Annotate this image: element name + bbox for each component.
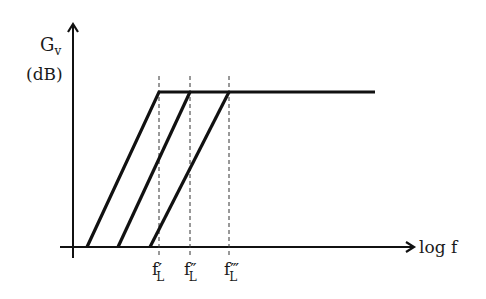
gain-frequency-diagram: Gv (dB) log f f′L f″L f‴L bbox=[0, 0, 486, 299]
response-curves bbox=[87, 92, 375, 247]
y-axis-unit: (dB) bbox=[26, 64, 63, 84]
response-curve-2 bbox=[118, 92, 190, 247]
cutoff-label-1: f′L bbox=[152, 259, 164, 284]
cutoff-guides bbox=[159, 76, 229, 256]
x-axis-label: log f bbox=[419, 237, 459, 257]
y-axis-label: Gv bbox=[40, 34, 61, 58]
cutoff-label-3: f‴L bbox=[224, 259, 239, 284]
cutoff-label-2: f″L bbox=[184, 259, 197, 284]
